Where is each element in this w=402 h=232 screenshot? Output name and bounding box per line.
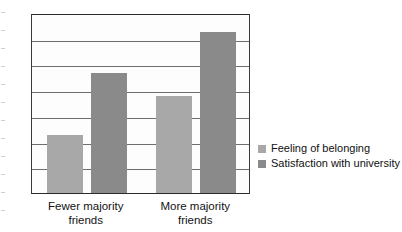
chart-legend: Feeling of belongingSatisfaction with un… [258,142,398,172]
x-axis-category-label: More majority friends [140,199,250,228]
plot-area-wrapper [31,14,250,194]
bar [156,96,192,193]
bar-chart: 76543210 Fewer majority friendsMore majo… [0,0,402,232]
x-axis-category-labels: Fewer majority friendsMore majority frie… [31,197,250,231]
page-margin-marks [0,8,6,224]
bar [91,73,127,193]
legend-item: Feeling of belonging [258,142,398,155]
bar [47,135,83,193]
bar [200,32,236,193]
x-axis-category-label: Fewer majority friends [31,199,141,228]
legend-item: Satisfaction with university [258,157,398,170]
legend-item-label: Feeling of belonging [271,143,370,154]
legend-item-label: Satisfaction with university [271,158,400,169]
legend-swatch-dark [258,160,266,168]
plot-area [31,14,250,194]
legend-swatch-light [258,145,266,153]
